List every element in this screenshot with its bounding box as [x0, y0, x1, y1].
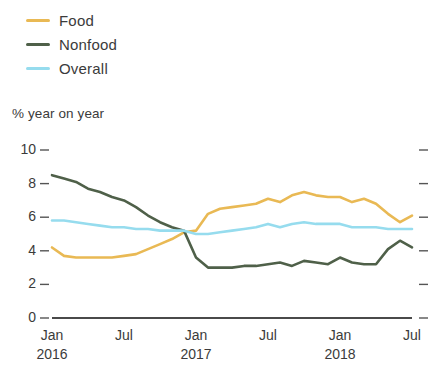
- series-line-overall: [52, 221, 412, 234]
- x-axis-label: Jul: [238, 327, 298, 343]
- y-axis-label: 2: [10, 275, 36, 291]
- x-axis-year-label: 2017: [166, 346, 226, 362]
- x-axis-label: Jul: [382, 327, 431, 343]
- y-axis-label: 10: [10, 141, 36, 157]
- y-axis-label: 4: [10, 242, 36, 258]
- series-line-food: [52, 192, 412, 258]
- x-axis-label: Jan: [166, 327, 226, 343]
- chart-figure: Food Nonfood Overall % year on year 1086…: [0, 0, 431, 370]
- x-axis-label: Jan: [310, 327, 370, 343]
- y-axis-label: 6: [10, 208, 36, 224]
- chart-svg: [0, 0, 431, 370]
- plot-area: [0, 0, 431, 370]
- x-axis-label: Jul: [94, 327, 154, 343]
- y-axis-label: 0: [10, 309, 36, 325]
- x-axis-year-label: 2016: [22, 346, 82, 362]
- x-axis-year-label: 2018: [310, 346, 370, 362]
- y-axis-label: 8: [10, 175, 36, 191]
- x-axis-label: Jan: [22, 327, 82, 343]
- series-line-nonfood: [52, 175, 412, 267]
